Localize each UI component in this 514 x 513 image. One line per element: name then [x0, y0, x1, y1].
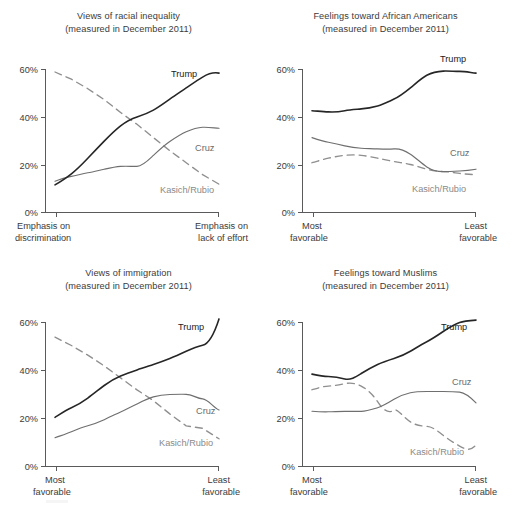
ylabel-40: 40% — [277, 113, 295, 123]
series-label-trump: Trump — [441, 322, 467, 332]
series-label-cruz: Cruz — [452, 377, 472, 387]
series-label-kasich-rubio: Kasich/Rubio — [159, 438, 213, 448]
plot-area: 60% 40% 20% 0% Most favorable Least favo… — [0, 257, 257, 513]
ylabel-40: 40% — [20, 366, 38, 376]
panel-immigration: Views of immigration (measured in Decemb… — [0, 257, 257, 513]
series-label-cruz: Cruz — [450, 148, 470, 158]
series-label-kasich-rubio: Kasich/Rubio — [410, 447, 464, 457]
series-label-trump: Trump — [171, 69, 197, 79]
xlabel-right-line1: Emphasis on — [195, 221, 248, 231]
ylabel-20: 20% — [277, 414, 295, 424]
ylabel-0: 0% — [25, 462, 38, 472]
ylabel-20: 20% — [277, 161, 295, 171]
xlabel-left-line1: Emphasis on — [17, 221, 70, 231]
series-label-cruz: Cruz — [196, 406, 216, 416]
xlabel-right-line2: favorable — [202, 487, 240, 497]
ylabel-60: 60% — [20, 318, 38, 328]
ylabel-20: 20% — [20, 414, 38, 424]
xlabel-left-line2: favorable — [290, 487, 328, 497]
xlabel-right-line1: Least — [208, 475, 231, 485]
xlabel-left-line1: Most — [45, 475, 65, 485]
ylabel-60: 60% — [277, 65, 295, 75]
xlabel-left-line2: discrimination — [15, 233, 71, 243]
series-label-kasich-rubio: Kasich/Rubio — [160, 185, 214, 195]
series-label-trump: Trump — [178, 322, 204, 332]
plot-area: 60% 40% 20% 0% Most favorable Least favo… — [257, 257, 514, 513]
xlabel-right-line1: Least — [465, 221, 488, 231]
figure-four-panel-line-charts: Views of racial inequality (measured in … — [0, 0, 514, 513]
ylabel-0: 0% — [282, 208, 295, 218]
ylabel-60: 60% — [20, 65, 38, 75]
xlabel-right-line1: Least — [465, 475, 488, 485]
plot-area: 60% 40% 20% 0% Most favorable Least favo… — [257, 0, 514, 256]
xlabel-right-line2: lack of effort — [198, 233, 248, 243]
series-line-kasich-rubio — [312, 383, 476, 449]
xlabel-left-line1: Most — [302, 475, 322, 485]
panel-racial-inequality: Views of racial inequality (measured in … — [0, 0, 257, 256]
ylabel-0: 0% — [282, 462, 295, 472]
ylabel-40: 40% — [277, 366, 295, 376]
panel-african-americans: Feelings toward African Americans (measu… — [257, 0, 514, 256]
series-line-cruz — [312, 392, 476, 412]
xlabel-left-line1: Most — [302, 221, 322, 231]
ylabel-40: 40% — [20, 113, 38, 123]
series-line-kasich-rubio — [55, 337, 219, 439]
series-line-cruz — [55, 394, 219, 437]
series-label-cruz: Cruz — [195, 143, 215, 153]
series-line-trump — [312, 71, 476, 112]
xlabel-right-line2: favorable — [459, 233, 497, 243]
ylabel-60: 60% — [277, 318, 295, 328]
ylabel-0: 0% — [25, 208, 38, 218]
scan-artifact — [46, 500, 68, 503]
ylabel-20: 20% — [20, 161, 38, 171]
series-label-kasich-rubio: Kasich/Rubio — [412, 184, 466, 194]
xlabel-right-line2: favorable — [459, 487, 497, 497]
xlabel-left-line2: favorable — [290, 233, 328, 243]
series-line-trump — [55, 319, 219, 417]
series-label-trump: Trump — [440, 54, 466, 64]
plot-area: 60% 40% 20% 0% Emphasis on discriminatio… — [0, 0, 257, 256]
xlabel-left-line2: favorable — [33, 487, 71, 497]
panel-muslims: Feelings toward Muslims (measured in Dec… — [257, 257, 514, 513]
series-line-cruz — [55, 127, 219, 181]
